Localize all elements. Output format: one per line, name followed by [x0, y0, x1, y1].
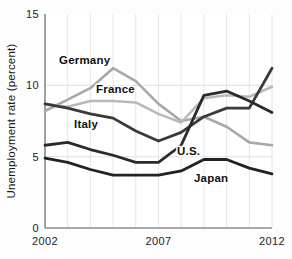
series-label-italy: Italy [74, 118, 98, 130]
chart-figure: 051015 200220072012 Unemployment rate (p… [0, 0, 292, 259]
y-tick-label: 5 [32, 151, 39, 163]
series-label-france: France [96, 83, 135, 95]
series-label-us: U.S. [177, 145, 200, 157]
series-label-japan: Japan [194, 172, 228, 184]
x-axis-tick-labels: 200220072012 [32, 235, 285, 247]
unemployment-rate-line-chart: 051015 200220072012 Unemployment rate (p… [0, 0, 292, 259]
x-tick-label: 2012 [259, 235, 285, 247]
y-axis-tick-labels: 051015 [26, 8, 39, 234]
y-tick-label: 10 [26, 79, 39, 91]
y-tick-label: 15 [26, 8, 39, 20]
y-axis-title: Unemployment rate (percent) [5, 44, 17, 199]
x-tick-label: 2002 [32, 235, 58, 247]
y-tick-label: 0 [32, 222, 39, 234]
x-tick-label: 2007 [145, 235, 171, 247]
series-label-germany: Germany [59, 54, 111, 66]
